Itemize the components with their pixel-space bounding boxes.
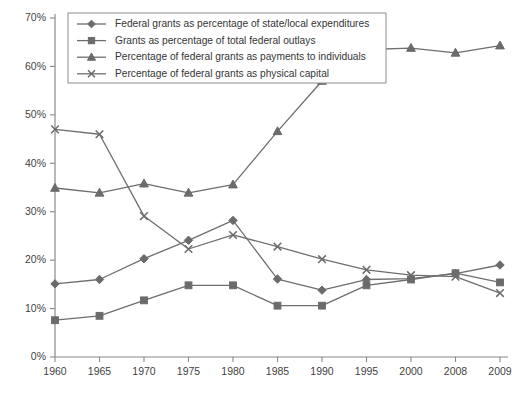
x-tick-label: 2009 [488,365,512,377]
data-point-square [230,282,237,289]
data-point-square [88,37,94,43]
y-tick-label: 10% [25,302,46,314]
data-point-square [96,312,103,319]
data-point-diamond [496,261,504,269]
x-tick-label: 1960 [43,365,67,377]
x-tick-label: 1965 [88,365,112,377]
x-tick-label: 1975 [177,365,201,377]
x-tick-label: 1980 [221,365,245,377]
data-point-triangle [51,183,60,191]
data-point-square [497,279,504,286]
x-tick-labels: 1960196519701975198019851990199520002008… [43,365,512,377]
data-point-diamond [51,280,59,288]
data-point-x [496,289,504,297]
data-point-diamond [95,275,103,283]
x-tick-label: 2008 [444,365,468,377]
x-tick-label: 1985 [266,365,290,377]
legend-item-4[interactable]: Percentage of federal grants as physical… [77,68,329,79]
data-point-square [363,282,370,289]
series-4 [51,126,504,297]
y-tick-label: 40% [25,157,46,169]
y-tick-label: 0% [31,350,46,362]
data-point-triangle [140,179,149,187]
y-tick-label: 50% [25,108,46,120]
data-point-square [274,302,281,309]
legend-label: Grants as percentage of total federal ou… [115,35,315,46]
legend-label: Percentage of federal grants as physical… [115,68,329,79]
data-point-square [319,302,326,309]
data-point-x [185,245,193,253]
legend-label: Federal grants as percentage of state/lo… [115,18,369,29]
y-tick-labels: 0%10%20%30%40%50%60%70% [25,11,46,362]
line-chart: 0%10%20%30%40%50%60%70% 1960196519701975… [0,0,516,395]
data-point-square [52,317,59,324]
y-tick-label: 70% [25,11,46,23]
x-tick-label: 1990 [310,365,334,377]
x-tick-label: 2000 [399,365,423,377]
data-point-diamond [184,236,192,244]
legend-item-1[interactable]: Federal grants as percentage of state/lo… [77,18,369,29]
y-tick-label: 30% [25,205,46,217]
data-point-x [140,212,148,220]
data-point-triangle [496,41,505,49]
data-point-square [185,282,192,289]
y-tick-label: 60% [25,60,46,72]
legend-item-3[interactable]: Percentage of federal grants as payments… [77,51,366,62]
data-point-triangle [407,43,416,51]
data-point-x [229,231,237,239]
data-point-diamond [140,254,148,262]
x-tick-label: 1970 [132,365,156,377]
chart-canvas: 0%10%20%30%40%50%60%70% 1960196519701975… [0,0,516,395]
chart-legend: Federal grants as percentage of state/lo… [68,13,386,83]
data-point-diamond [318,286,326,294]
series-1 [51,216,504,294]
y-tick-label: 20% [25,253,46,265]
legend-label: Percentage of federal grants as payments… [115,51,366,62]
data-point-x [274,243,282,251]
x-tick-label: 1995 [355,365,379,377]
data-point-square [141,297,148,304]
